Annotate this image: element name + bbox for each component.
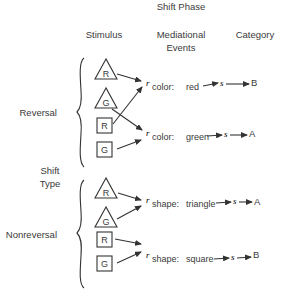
arrow-to-s [207, 135, 222, 136]
group-label-reversal: Reversal [20, 107, 58, 118]
group-label-nonreversal: Nonreversal [6, 229, 57, 240]
mediator-color-green: r color: green s A [146, 128, 256, 142]
header-events: Events [166, 42, 195, 53]
link-square-r-to-square [115, 239, 141, 244]
arrow-to-s [216, 202, 231, 203]
arrow-to-s [203, 83, 218, 86]
stimulus-triangle-r: R [95, 59, 117, 79]
svg-text:R: R [103, 188, 110, 198]
svg-text:G: G [102, 217, 109, 227]
shift-type-label-line1: Shift [40, 165, 59, 176]
mediator-dimension: color: [152, 82, 174, 92]
diagram-title: Shift Phase [157, 1, 206, 12]
mediator-value: red [186, 82, 199, 92]
stimulus-square-r: R [97, 232, 112, 247]
link-triangle-r-to-red [117, 74, 141, 81]
arrow-to-s [214, 258, 229, 259]
link-square-g-to-green [117, 140, 141, 149]
mediator-color-red: r color: red s B [146, 77, 257, 92]
mediator-value: green [186, 132, 209, 142]
link-triangle-r-to-triangle [118, 193, 141, 200]
category-label: B [251, 77, 257, 88]
mediator-dimension: shape: [152, 199, 179, 209]
stimulus-triangle-g: G [95, 88, 117, 108]
stimulus-square-r: R [97, 118, 112, 133]
r-label: r [146, 128, 150, 138]
s-label: s [220, 78, 224, 88]
r-label: r [146, 78, 150, 88]
svg-text:R: R [101, 235, 108, 245]
shift-phase-diagram: Shift Phase Stimulus Mediational Events … [0, 0, 287, 301]
mediator-dimension: color: [152, 132, 174, 142]
svg-text:G: G [101, 145, 108, 155]
stimulus-square-g: G [97, 256, 112, 271]
svg-text:G: G [101, 259, 108, 269]
s-label: s [224, 129, 228, 139]
category-label: A [254, 196, 261, 207]
mediator-shape-square: r shape: square s B [146, 249, 259, 264]
brace-nonreversal [77, 180, 84, 288]
brace-reversal [77, 58, 84, 167]
r-label: r [146, 250, 150, 260]
svg-text:R: R [101, 121, 108, 131]
header-mediational: Mediational [157, 29, 206, 40]
shift-type-label-line2: Type [40, 178, 61, 189]
header-category: Category [236, 29, 275, 40]
mediator-shape-triangle: r shape: triangle s A [146, 195, 261, 209]
mediator-value: square [186, 254, 214, 264]
category-label: B [253, 249, 259, 260]
link-triangle-g-to-triangle [117, 206, 141, 219]
svg-text:R: R [103, 69, 110, 79]
header-stimulus: Stimulus [86, 29, 123, 40]
s-label: s [231, 252, 235, 262]
stimulus-triangle-g: G [95, 207, 117, 227]
link-square-r-to-red [113, 87, 142, 124]
stimulus-triangle-r: R [95, 178, 117, 198]
stimulus-square-g: G [97, 142, 112, 157]
r-label: r [146, 195, 150, 205]
link-square-g-to-square [117, 252, 141, 263]
mediator-value: triangle [186, 199, 216, 209]
category-label: A [249, 128, 256, 139]
mediator-dimension: shape: [152, 254, 179, 264]
s-label: s [233, 196, 237, 206]
svg-text:G: G [102, 98, 109, 108]
arrow-to-category [237, 257, 251, 258]
